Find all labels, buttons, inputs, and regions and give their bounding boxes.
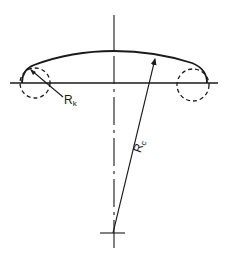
right-knuckle-circle [177, 69, 209, 101]
diagram-canvas: Rk Rc [0, 0, 227, 258]
knuckle-radius-label: Rk [64, 94, 77, 108]
head-profile-drawing [0, 0, 227, 258]
